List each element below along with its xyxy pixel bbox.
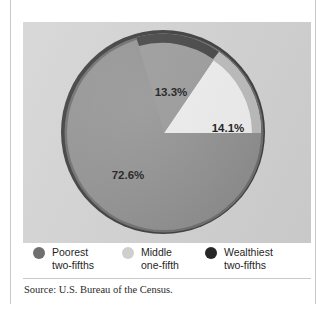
legend-label-poorest-line2: two-fifths (52, 259, 94, 272)
legend-label-middle: Middle one-fifth (141, 246, 179, 271)
legend-label-middle-line2: one-fifth (141, 259, 179, 272)
legend-label-poorest-line1: Poorest (52, 246, 88, 258)
figure-card: The Share of Aggregate Income Received b… (10, 0, 316, 304)
legend-swatch-icon-middle (122, 247, 134, 259)
pie-label-14: 14.1% (212, 122, 245, 134)
legend-label-poorest: Poorest two-fifths (52, 246, 94, 271)
legend-swatch-icon-poorest (33, 247, 45, 259)
legend-swatch-icon-wealthiest (205, 247, 217, 259)
legend-label-middle-line1: Middle (141, 246, 172, 258)
pie-label-72: 72.6% (112, 169, 145, 181)
pie-label-13: 13.3% (155, 86, 188, 98)
chart-legend: Poorest two-fifths Middle one-fifth Weal… (23, 246, 313, 276)
source-note: Source: U.S. Bureau of the Census. (24, 284, 173, 295)
pie-chart-panel: 13.3% 14.1% 72.6% (23, 22, 311, 243)
source-divider (23, 278, 311, 279)
legend-label-wealthiest: Wealthiest two-fifths (224, 246, 273, 271)
legend-item-middle[interactable]: Middle one-fifth (122, 246, 179, 271)
pie-chart: 13.3% 14.1% 72.6% (23, 22, 311, 243)
legend-item-wealthiest[interactable]: Wealthiest two-fifths (205, 246, 273, 271)
legend-item-poorest[interactable]: Poorest two-fifths (33, 246, 94, 271)
legend-label-wealthiest-line1: Wealthiest (224, 246, 273, 258)
legend-label-wealthiest-line2: two-fifths (224, 259, 273, 272)
pie-svg: 13.3% 14.1% 72.6% (23, 22, 311, 243)
